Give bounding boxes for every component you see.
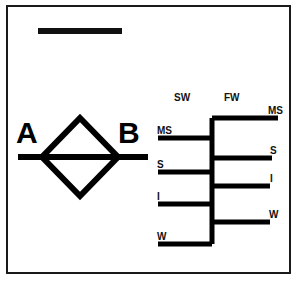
sw-leaf-label-w: W [157,232,166,242]
diamond-label-a: A [16,118,38,148]
sw-leaf-label-i: I [157,192,160,202]
dendrogram [150,100,298,260]
fw-leaf-label-w: W [269,210,278,220]
sw-leaf-label-s: S [157,160,164,170]
fw-leaf-label-i: I [270,174,273,184]
fw-leaf-label-ms: MS [268,106,283,116]
scale-bar [38,28,122,34]
sw-leaf-label-ms: MS [157,126,172,136]
fw-leaf-label-s: S [270,146,277,156]
diamond-label-b: B [118,118,140,148]
figure-canvas: A B SW FW MS S I W MS [0,0,298,281]
